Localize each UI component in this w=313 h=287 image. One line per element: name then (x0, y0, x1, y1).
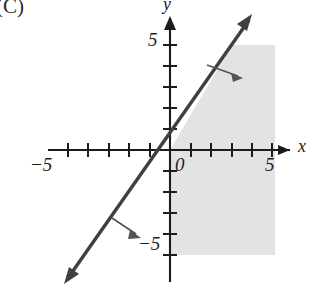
y-tick-label-negative-5: −5 (138, 233, 160, 255)
x-axis-label: x (298, 136, 306, 157)
x-tick-label-5: 5 (265, 154, 275, 176)
origin-label: 0 (175, 154, 185, 176)
y-tick-label-5: 5 (148, 29, 158, 51)
y-axis-label: y (163, 0, 171, 15)
direction-arrow-lower (112, 218, 141, 239)
inequality-graph-figure: (C) (0, 0, 313, 287)
x-tick-label-negative-5: −5 (30, 154, 52, 176)
